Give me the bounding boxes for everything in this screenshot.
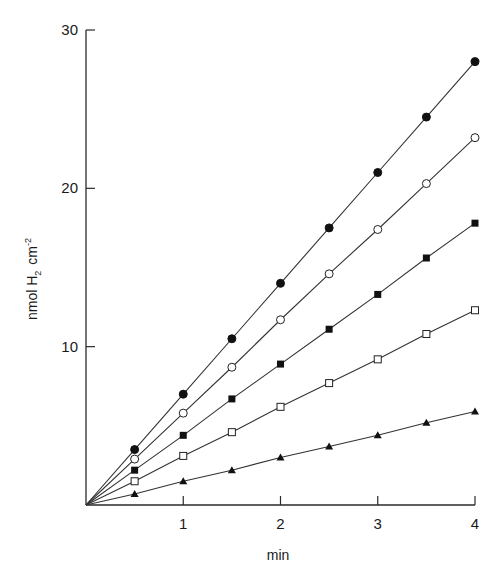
open-circle-marker — [277, 316, 285, 324]
x-tick-label: 2 — [276, 515, 284, 532]
open-square-marker — [326, 380, 333, 387]
filled-circle-marker — [228, 335, 236, 343]
x-tick-label: 3 — [374, 515, 382, 532]
x-tick-label: 4 — [471, 515, 479, 532]
open-circle-marker — [131, 455, 139, 463]
filled-square-marker — [131, 467, 138, 474]
filled-square-marker — [374, 291, 381, 298]
open-square-marker — [131, 478, 138, 485]
filled-square-marker — [423, 255, 430, 262]
filled-circle-marker — [325, 224, 333, 232]
open-square-marker — [180, 452, 187, 459]
filled-circle-marker — [422, 113, 430, 121]
y-tick-label: 20 — [61, 179, 78, 196]
filled-square-marker — [277, 361, 284, 368]
open-circle-marker — [179, 409, 187, 417]
filled-triangle-marker — [471, 408, 479, 415]
y-axis-label: nmol H2cm-2 — [23, 238, 43, 320]
axis-labels: 1020301234minnmol H2cm-2 — [23, 21, 479, 563]
series-markers — [131, 58, 479, 497]
x-tick-label: 1 — [179, 515, 187, 532]
open-square-marker — [374, 356, 381, 363]
line-chart: 1020301234minnmol H2cm-2 — [0, 0, 494, 573]
filled-circle-marker — [277, 279, 285, 287]
filled-square-marker — [472, 220, 479, 227]
y-tick-label: 30 — [61, 21, 78, 38]
filled-circle-marker — [131, 446, 139, 454]
open-circle-marker — [471, 134, 479, 142]
open-circle-marker — [422, 180, 430, 188]
filled-circle-marker — [179, 390, 187, 398]
open-square-marker — [277, 403, 284, 410]
axes — [86, 30, 475, 505]
open-circle-marker — [228, 363, 236, 371]
x-axis-label: min — [267, 547, 290, 563]
open-square-marker — [228, 429, 235, 436]
open-circle-marker — [374, 226, 382, 234]
open-circle-marker — [325, 270, 333, 278]
filled-circle-marker — [471, 58, 479, 66]
open-square-marker — [472, 307, 479, 314]
open-square-marker — [423, 331, 430, 338]
filled-circle-marker — [374, 169, 382, 177]
y-tick-label: 10 — [61, 338, 78, 355]
filled-square-marker — [228, 395, 235, 402]
filled-square-marker — [326, 326, 333, 333]
filled-square-marker — [180, 432, 187, 439]
